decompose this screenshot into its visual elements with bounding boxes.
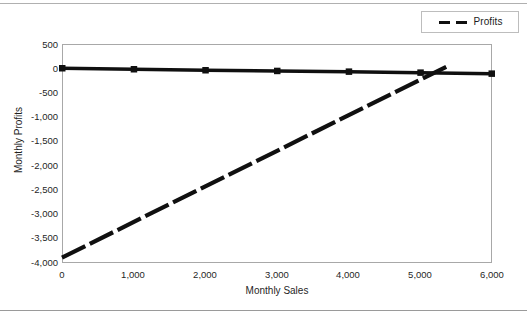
x-tick: 2,000 (175, 270, 235, 280)
series-profits (62, 65, 449, 257)
chart-page: Profits 500 0 -500 -1,000 -1,500 -2,000 … (0, 0, 527, 320)
x-axis-title: Monthly Sales (62, 286, 492, 296)
legend-entry-profits: Profits (422, 12, 518, 32)
x-tick: 4,000 (318, 270, 378, 280)
chart-legend: Profits (421, 11, 519, 33)
legend-label-profits: Profits (473, 17, 502, 27)
y-axis-title: Monthly Profits (14, 85, 24, 195)
data-point-marker (202, 67, 209, 74)
x-tick: 5,000 (390, 270, 450, 280)
x-axis-tick-labels: 0 1,000 2,000 3,000 4,000 5,000 6,000 (0, 270, 527, 284)
x-tick: 1,000 (103, 270, 163, 280)
data-point-marker (131, 66, 138, 73)
x-tick: 6,000 (462, 270, 522, 280)
page-rule-bottom (0, 310, 527, 311)
data-point-marker (417, 69, 424, 76)
page-rule-top (0, 3, 527, 4)
profits-line (62, 65, 449, 257)
dashed-line-icon (437, 17, 471, 27)
data-point-marker (346, 68, 353, 75)
x-tick: 3,000 (247, 270, 307, 280)
data-point-marker (59, 65, 66, 72)
data-point-marker (489, 70, 496, 77)
plot-canvas (62, 44, 492, 263)
data-point-marker (274, 68, 281, 75)
x-tick: 0 (32, 270, 92, 280)
